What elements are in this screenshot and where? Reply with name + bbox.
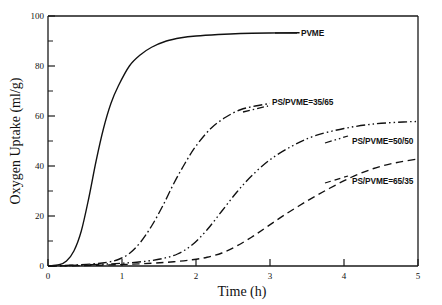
x-axis-title: Time (h) <box>218 284 267 300</box>
x-tick-label-3: 3 <box>268 271 273 281</box>
leader-ps-pvme-65-35 <box>325 176 348 183</box>
leader-ps-pvme-50-50 <box>325 136 348 143</box>
y-tick-label-20: 20 <box>35 211 45 221</box>
leader-ps-pvme-35-65 <box>243 106 268 112</box>
series-label-ps-pvme-65-35: PS/PVME=65/35 <box>352 176 414 186</box>
x-tick-label-5: 5 <box>416 271 421 281</box>
curve-ps-pvme-35-65 <box>48 104 270 267</box>
y-tick-label-80: 80 <box>35 61 45 71</box>
x-tick-label-1: 1 <box>120 271 125 281</box>
series-label-ps-pvme-35-65: PS/PVME=35/65 <box>272 97 334 107</box>
x-tick-label-2: 2 <box>194 271 199 281</box>
oxygen-uptake-line-chart: 0 20 40 60 80 100 0 1 2 3 4 5 Time (h) O… <box>0 0 442 305</box>
x-tick-label-0: 0 <box>46 271 51 281</box>
annotation-leaders <box>243 33 348 183</box>
y-tick-label-40: 40 <box>35 161 45 171</box>
chart-figure: 0 20 40 60 80 100 0 1 2 3 4 5 Time (h) O… <box>0 0 442 305</box>
y-tick-label-100: 100 <box>31 11 45 21</box>
series-label-ps-pvme-50-50: PS/PVME=50/50 <box>352 136 414 146</box>
y-axis-ticks <box>48 16 55 266</box>
y-tick-label-0: 0 <box>40 261 45 271</box>
x-tick-label-4: 4 <box>342 271 347 281</box>
series-label-pvme: PVME <box>301 28 325 38</box>
y-axis-title: Oxygen Uptake (ml/g) <box>8 77 24 204</box>
y-tick-label-60: 60 <box>35 111 45 121</box>
series-curves <box>48 33 418 266</box>
